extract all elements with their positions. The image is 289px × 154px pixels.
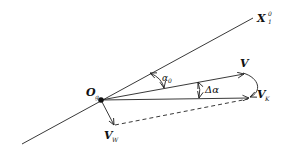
- origin-label-sub: g: [95, 93, 99, 101]
- axis-label-sub: 1: [268, 18, 272, 25]
- axis-label-sup: 0: [268, 10, 272, 17]
- delta-alpha-label: Δα: [204, 84, 219, 95]
- vk-vector: [101, 98, 249, 100]
- dashed-resultant-line: [115, 99, 248, 125]
- alpha0-label-sub: 0: [168, 77, 172, 84]
- v-label: V: [240, 57, 250, 70]
- origin-point: [98, 97, 104, 103]
- v-vector: [101, 74, 244, 100]
- vk-label-sub: K: [264, 95, 270, 102]
- rotation-arc: [243, 73, 258, 97]
- vector-diagram: X 0 1 O g V V K V W α 0 Δα: [0, 0, 289, 154]
- vw-vector: [101, 100, 114, 125]
- delta-alpha-arc: [198, 82, 200, 98]
- axis-label: X: [256, 12, 266, 25]
- x-axis-line: [22, 18, 253, 144]
- vw-label-sub: W: [112, 136, 119, 143]
